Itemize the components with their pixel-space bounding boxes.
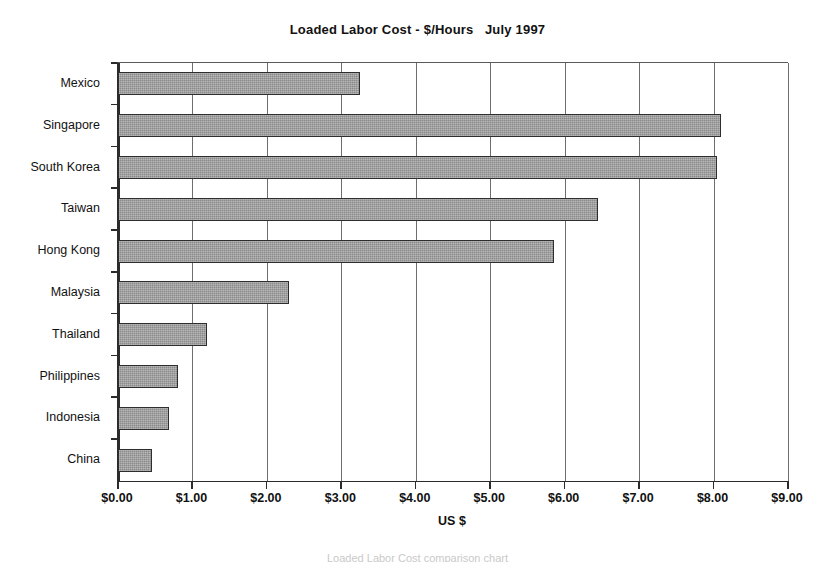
x-axis-tick [117,481,119,489]
x-axis-tick [564,481,566,489]
y-label-taiwan: Taiwan [61,201,100,215]
y-label-thailand: Thailand [52,327,100,341]
bar-row [118,114,788,137]
bar-row [118,240,788,263]
y-label-south-korea: South Korea [31,160,101,174]
x-tick-label: $2.00 [226,491,306,505]
x-tick-label: $1.00 [151,491,231,505]
bar-row [118,198,788,221]
bar-row [118,323,788,346]
footer-note: Loaded Labor Cost comparison chart [0,552,835,562]
y-label-singapore: Singapore [43,118,100,132]
x-axis-tick [638,481,640,489]
bar-south-korea[interactable] [118,156,717,179]
bar-row [118,156,788,179]
x-tick-label: $8.00 [673,491,753,505]
bar-china[interactable] [118,449,152,472]
bars-layer [118,63,788,481]
bar-row [118,407,788,430]
x-axis-tick [266,481,268,489]
x-axis-tick [415,481,417,489]
chart-title: Loaded Labor Cost - $/Hours July 1997 [0,22,835,37]
bar-row [118,72,788,95]
bar-malaysia[interactable] [118,281,289,304]
x-tick-label: $9.00 [747,491,827,505]
y-label-malaysia: Malaysia [51,285,100,299]
x-tick-label: $3.00 [300,491,380,505]
plot-area [117,62,788,482]
x-axis-ticks [117,481,787,490]
bar-taiwan[interactable] [118,198,598,221]
bar-row [118,365,788,388]
x-axis-tick [191,481,193,489]
bar-row [118,449,788,472]
bar-indonesia[interactable] [118,407,169,430]
bar-hong-kong[interactable] [118,240,554,263]
bar-mexico[interactable] [118,72,360,95]
bar-chart: Loaded Labor Cost - $/Hours July 1997 Me… [0,0,835,562]
x-axis-tick [489,481,491,489]
x-tick-label: $5.00 [449,491,529,505]
x-tick-label: $4.00 [375,491,455,505]
y-label-indonesia: Indonesia [46,410,100,424]
x-tick-label: $7.00 [598,491,678,505]
bar-singapore[interactable] [118,114,721,137]
x-axis-tick-labels: $0.00$1.00$2.00$3.00$4.00$5.00$6.00$7.00… [0,491,835,511]
y-label-mexico: Mexico [60,76,100,90]
y-label-china: China [67,452,100,466]
bar-philippines[interactable] [118,365,178,388]
gridline-900 [788,63,789,481]
x-axis-title: US $ [117,514,787,528]
y-label-philippines: Philippines [40,369,100,383]
x-axis-tick [340,481,342,489]
bar-row [118,281,788,304]
y-axis-category-labels: MexicoSingaporeSouth KoreaTaiwanHong Kon… [0,62,110,480]
x-tick-label: $0.00 [77,491,157,505]
y-label-hong-kong: Hong Kong [37,243,100,257]
x-axis-tick [713,481,715,489]
bar-thailand[interactable] [118,323,207,346]
x-tick-label: $6.00 [524,491,604,505]
x-axis-tick [787,481,789,489]
